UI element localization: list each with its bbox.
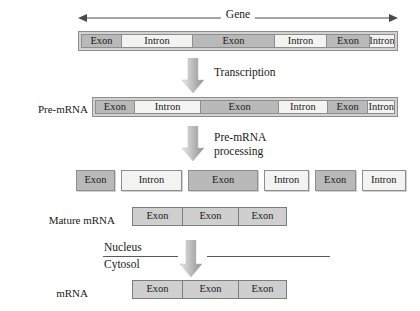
- gene-segment-intron-2: Intron: [274, 34, 327, 48]
- pre-mrna-segment-intron-2: Intron: [278, 100, 328, 114]
- separated-segment-intron-1: Intron: [121, 170, 182, 191]
- pre-mrna-segment-intron-3: Intron: [367, 100, 395, 114]
- cytosol-label: Cytosol: [104, 258, 140, 271]
- mature-mrna-row-label: Mature mRNA: [10, 214, 115, 226]
- gene-segment-exon-2: Exon: [192, 34, 275, 48]
- pre-mrna-segment-exon-2: Exon: [200, 100, 279, 114]
- pre-mrna-segment-exon-3: Exon: [327, 100, 369, 114]
- transcription-arrow: [181, 58, 205, 98]
- nucleus-label: Nucleus: [104, 241, 142, 254]
- down-block-arrow-icon: [179, 240, 203, 278]
- separated-segment-exon-1: Exon: [76, 170, 115, 191]
- down-block-arrow-icon: [181, 58, 205, 94]
- mature-mrna-segment-exon-1: Exon: [133, 208, 183, 225]
- gene-bar: Exon Intron Exon Intron Exon Intron: [78, 31, 398, 51]
- mrna-row-label: mRNA: [10, 287, 88, 299]
- processing-arrow: [181, 126, 205, 166]
- arrow-left-icon: [78, 14, 87, 22]
- separated-segment-intron-3: Intron: [362, 170, 406, 191]
- arrow-right-icon: [389, 14, 398, 22]
- mature-mrna-segment-exon-2: Exon: [183, 208, 239, 225]
- gene-segment-intron-3: Intron: [369, 34, 395, 48]
- separated-segments-row: Exon Intron Exon Intron Exon Intron: [76, 170, 406, 191]
- processing-label-line1: Pre-mRNA: [214, 131, 266, 144]
- pre-mrna-bar: Exon Intron Exon Intron Exon Intron: [92, 97, 398, 117]
- gene-expression-diagram: Gene Exon Intron Exon Intron Exon Intron…: [0, 0, 420, 311]
- membrane-divider-left: [103, 256, 178, 257]
- mrna-segment-exon-1: Exon: [133, 281, 183, 298]
- separated-segment-exon-3: Exon: [315, 170, 356, 191]
- pre-mrna-segment-exon-1: Exon: [95, 100, 135, 114]
- pre-mrna-row-label: Pre-mRNA: [10, 103, 88, 115]
- gene-span-arrow: Gene: [78, 10, 398, 26]
- down-block-arrow-icon: [181, 126, 205, 162]
- processing-label-line2: processing: [214, 145, 263, 158]
- mature-mrna-bar: Exon Exon Exon: [132, 207, 287, 226]
- pre-mrna-segment-intron-1: Intron: [134, 100, 202, 114]
- membrane-divider-right: [207, 256, 330, 257]
- mrna-bar: Exon Exon Exon: [132, 280, 287, 299]
- transcription-label: Transcription: [214, 66, 276, 79]
- gene-segment-intron-1: Intron: [121, 34, 193, 48]
- separated-segment-exon-2: Exon: [188, 170, 258, 191]
- export-arrow: [179, 240, 203, 282]
- mrna-segment-exon-3: Exon: [239, 281, 286, 298]
- gene-segment-exon-1: Exon: [81, 34, 122, 48]
- mature-mrna-segment-exon-3: Exon: [239, 208, 286, 225]
- separated-segment-intron-2: Intron: [264, 170, 308, 191]
- gene-segment-exon-3: Exon: [326, 34, 370, 48]
- gene-label: Gene: [221, 7, 255, 21]
- mrna-segment-exon-2: Exon: [183, 281, 239, 298]
